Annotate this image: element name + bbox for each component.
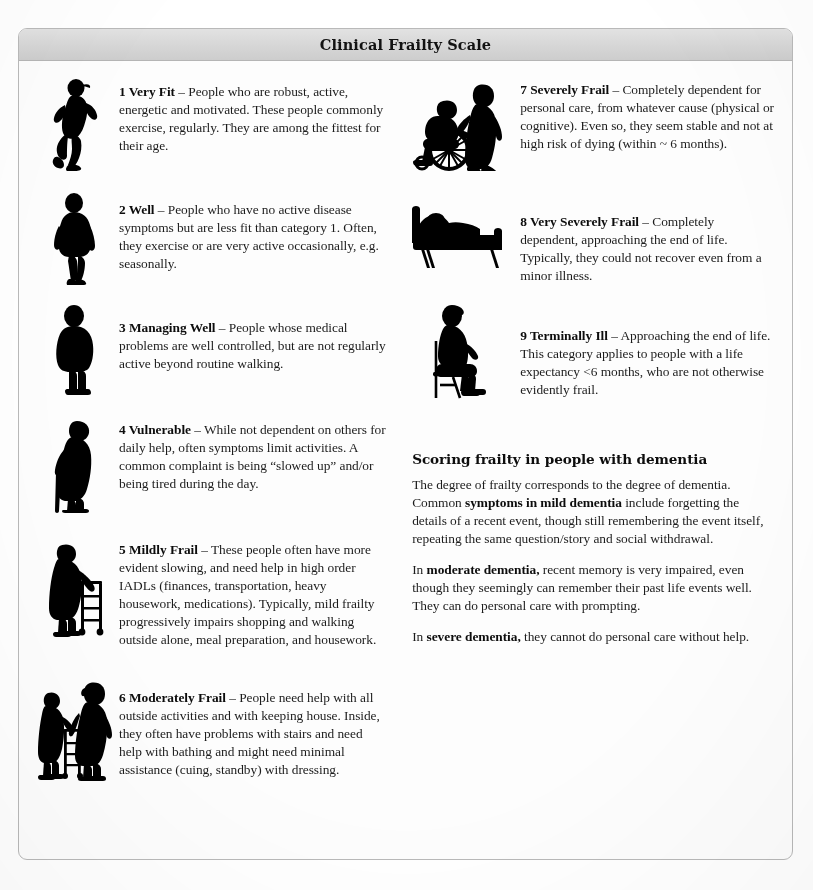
dementia-paragraph-moderate: In moderate dementia, recent memory is v… [412,561,768,615]
dementia-moderate-emphasis: moderate dementia, [427,562,540,577]
dementia-severe-text-2: they cannot do personal care without hel… [521,629,749,644]
card-header: Clinical Frailty Scale [19,29,792,61]
right-column: 7 Severely Frail – Completely dependent … [408,75,774,860]
scale-item-2-well: 2 Well – People who have no active disea… [35,193,388,285]
running-person-silhouette [35,79,113,171]
scale-item-4-vulnerable: 4 Vulnerable – While not dependent on ot… [35,417,388,513]
scale-item-4-lead: 4 Vulnerable [119,422,191,437]
scale-item-6-lead: 6 Moderately Frail [119,690,226,705]
scale-item-1-dash: – [175,84,188,99]
scale-item-7-lead: 7 Severely Frail [520,82,609,97]
dementia-paragraph-severe: In severe dementia, they cannot do perso… [412,628,768,646]
scale-item-3-dash: – [215,320,228,335]
seated-person-on-chair-silhouette [408,303,512,399]
scale-item-6-moderately-frail: 6 Moderately Frail – People need help wi… [35,677,388,781]
dementia-severe-text-1: In [412,629,426,644]
scale-item-7-dash: – [609,82,622,97]
scale-item-4-text: 4 Vulnerable – While not dependent on ot… [119,417,388,493]
person-assisted-with-walker-silhouette [35,677,113,781]
page-title: Clinical Frailty Scale [320,36,491,53]
left-column: 1 Very Fit – People who are robust, acti… [35,75,388,860]
walking-person-silhouette [35,193,113,285]
wheelchair-with-attendant-silhouette [408,79,512,171]
person-in-bed-silhouette [408,195,512,269]
dementia-mild-emphasis: symptoms in mild dementia [465,495,622,510]
scale-item-3-lead: 3 Managing Well [119,320,215,335]
scale-item-4-dash: – [191,422,204,437]
scale-item-2-lead: 2 Well [119,202,155,217]
dementia-moderate-text-1: In [412,562,426,577]
card-body: 1 Very Fit – People who are robust, acti… [19,61,792,860]
scale-item-5-text: 5 Mildly Frail – These people often have… [119,537,388,649]
scale-item-5-mildly-frail: 5 Mildly Frail – These people often have… [35,537,388,649]
dementia-severe-emphasis: severe dementia, [427,629,521,644]
scale-item-8-very-severely-frail: 8 Very Severely Frail – Completely depen… [408,195,774,285]
scale-item-7-severely-frail: 7 Severely Frail – Completely dependent … [408,79,774,171]
scale-item-8-text: 8 Very Severely Frail – Completely depen… [520,195,774,285]
scale-item-6-text: 6 Moderately Frail – People need help wi… [119,677,388,779]
clinical-frailty-scale-card: Clinical Frailty Scale [18,28,793,860]
scale-item-5-dash: – [198,542,211,557]
scale-item-1-text: 1 Very Fit – People who are robust, acti… [119,79,388,155]
scale-item-8-lead: 8 Very Severely Frail [520,214,639,229]
dementia-scoring-section: Scoring frailty in people with dementia … [408,451,768,659]
scale-item-2-dash: – [155,202,168,217]
standing-person-silhouette [35,305,113,395]
scale-item-9-lead: 9 Terminally Ill [520,328,608,343]
scale-item-1-very-fit: 1 Very Fit – People who are robust, acti… [35,79,388,171]
scale-item-3-managing-well: 3 Managing Well – People whose medical p… [35,305,388,395]
scale-item-3-text: 3 Managing Well – People whose medical p… [119,305,388,373]
scale-item-7-text: 7 Severely Frail – Completely dependent … [520,79,774,153]
dementia-section-heading: Scoring frailty in people with dementia [412,451,768,467]
scale-item-2-text: 2 Well – People who have no active disea… [119,193,388,273]
person-with-walker-silhouette [35,537,113,637]
scale-item-8-dash: – [639,214,652,229]
scale-item-9-dash: – [608,328,621,343]
scale-item-9-text: 9 Terminally Ill – Approaching the end o… [520,303,774,399]
scale-item-9-terminally-ill: 9 Terminally Ill – Approaching the end o… [408,303,774,399]
scale-item-5-description: These people often have more evident slo… [119,542,376,647]
dementia-paragraph-mild: The degree of frailty corresponds to the… [412,476,768,548]
scale-item-5-lead: 5 Mildly Frail [119,542,198,557]
scale-item-1-lead: 1 Very Fit [119,84,175,99]
scale-item-6-dash: – [226,690,239,705]
person-with-cane-silhouette [35,417,113,513]
